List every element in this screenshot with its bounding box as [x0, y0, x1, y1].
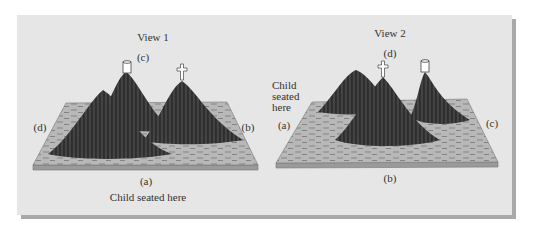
view1-label-top: (c) [137, 52, 149, 63]
view1-title: View 1 [137, 32, 168, 43]
view1-label-bottom: (a) [140, 176, 152, 187]
view1-label-right: (b) [242, 122, 255, 133]
view2-house-icon [421, 60, 429, 72]
view2-label-bottom: (b) [384, 173, 397, 184]
view1-cross-icon [177, 64, 187, 80]
view2-cross-icon [378, 61, 388, 77]
view1-scene [33, 61, 258, 170]
view2-caption: Child seated here [272, 80, 312, 113]
view2-mountain-right [410, 72, 470, 124]
view2-label-left: (a) [278, 120, 290, 131]
view2-title: View 2 [374, 28, 405, 39]
three-mountains-illustration [0, 0, 533, 231]
view1-caption: Child seated here [110, 192, 186, 203]
view1-board-edge [33, 165, 258, 170]
view1-label-left: (d) [34, 122, 47, 133]
view2-label-top: (d) [384, 48, 397, 59]
view2-label-right: (c) [486, 118, 498, 129]
view2-scene [276, 60, 498, 168]
view1-house-icon [123, 61, 131, 73]
